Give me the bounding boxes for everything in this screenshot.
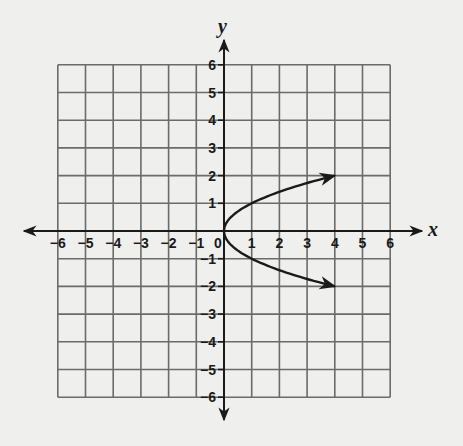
- y-tick-label: −4: [200, 334, 216, 350]
- x-tick-label: 0: [214, 235, 222, 251]
- x-tick-label: −3: [133, 235, 149, 251]
- y-tick-label: 3: [208, 140, 216, 156]
- y-tick-label: −5: [200, 362, 216, 378]
- coordinate-plane: −6−5−4−3−2−10123456654321−1−2−3−4−5−6 x …: [0, 0, 463, 446]
- x-tick-label: 6: [386, 235, 394, 251]
- y-tick-label: −3: [200, 306, 216, 322]
- x-tick-label: −2: [161, 235, 177, 251]
- x-tick-label: 5: [359, 235, 367, 251]
- y-tick-label: 4: [208, 112, 216, 128]
- x-tick-label: 2: [276, 235, 284, 251]
- x-tick-label: 3: [303, 235, 311, 251]
- x-tick-label: 4: [331, 235, 339, 251]
- y-tick-label: 2: [208, 168, 216, 184]
- y-tick-label: 6: [208, 57, 216, 73]
- x-axis-label: x: [427, 218, 438, 240]
- x-tick-label: −1: [188, 235, 204, 251]
- y-axis-label: y: [216, 15, 227, 38]
- y-tick-label: −2: [200, 278, 216, 294]
- x-tick-label: −5: [78, 235, 94, 251]
- y-tick-label: 5: [208, 85, 216, 101]
- y-tick-label: −6: [200, 389, 216, 405]
- x-tick-label: −6: [50, 235, 66, 251]
- x-tick-label: −4: [105, 235, 121, 251]
- y-tick-label: 1: [208, 195, 216, 211]
- x-tick-label: 1: [248, 235, 256, 251]
- y-tick-label: −1: [200, 251, 216, 267]
